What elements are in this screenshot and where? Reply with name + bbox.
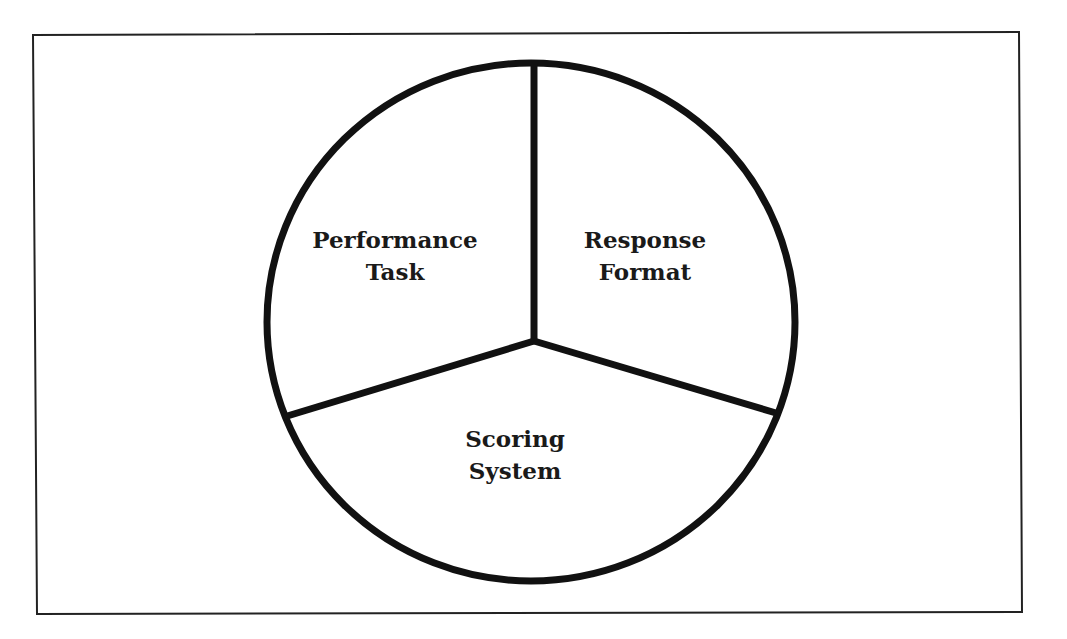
segment-label-line2: Format [599, 258, 692, 285]
segment-performance-task: Performance Task [312, 226, 477, 285]
segment-label-line2: Task [366, 258, 426, 285]
segment-label-line1: Performance [312, 226, 477, 253]
segment-label-line1: Scoring [465, 425, 565, 452]
segment-response-format: Response Format [584, 226, 706, 285]
segment-scoring-system: Scoring System [465, 425, 565, 484]
divider-left [284, 341, 534, 417]
segment-label-line2: System [469, 457, 562, 484]
assessment-components-diagram: Performance Task Response Format Scoring… [0, 0, 1067, 639]
divider-right [534, 341, 776, 413]
outer-frame [33, 32, 1022, 614]
segment-label-line1: Response [584, 226, 706, 253]
